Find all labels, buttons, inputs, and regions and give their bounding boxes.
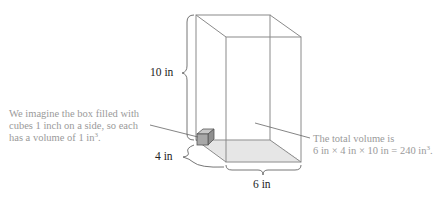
- depth-label: 4 in: [155, 150, 173, 162]
- width-label: 6 in: [253, 178, 271, 190]
- left-annotation: We imagine the box filled with cubes 1 i…: [9, 108, 139, 144]
- box-diagram: [0, 0, 447, 201]
- right-annotation: The total volume is 6 in × 4 in × 10 in …: [313, 133, 433, 157]
- height-label: 10 in: [150, 66, 173, 78]
